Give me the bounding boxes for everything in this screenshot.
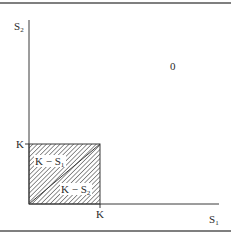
payoff-diagram: S2 S1 K K 0 K − S1 K − S2: [0, 0, 231, 237]
y-axis-label: S2: [14, 20, 24, 34]
outer-region-value: 0: [170, 60, 176, 72]
y-tick-label: K: [16, 138, 24, 150]
x-tick-label: K: [96, 208, 104, 220]
lower-triangle-label: K − S2: [61, 183, 91, 197]
x-axis-label: S1: [209, 213, 219, 227]
upper-triangle-label: K − S1: [35, 155, 65, 169]
